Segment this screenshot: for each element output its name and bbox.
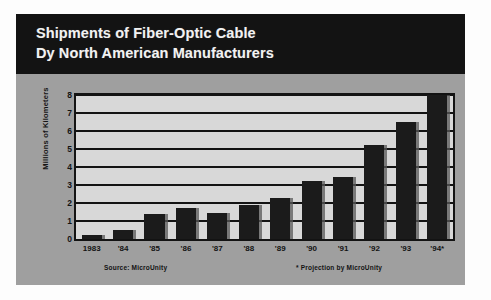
y-axis-tick: 5 — [56, 145, 72, 154]
chart-title-line-2: Dy North American Manufacturers — [36, 45, 274, 61]
bar — [239, 205, 259, 239]
y-axis-tick: 3 — [56, 181, 72, 190]
bar — [270, 198, 290, 239]
bar — [364, 145, 384, 240]
y-axis-tick: 7 — [56, 109, 72, 118]
y-axis-tick: 0 — [56, 235, 72, 244]
x-axis-tick: '88 — [233, 244, 264, 253]
bar — [207, 213, 227, 239]
bar — [176, 208, 196, 239]
y-axis-tick: 6 — [56, 127, 72, 136]
x-axis-tick: 1983 — [76, 244, 107, 253]
x-axis-tick: '91 — [327, 244, 358, 253]
bar — [144, 214, 164, 239]
projection-note: * Projection by MicroUnity — [296, 264, 382, 271]
chart-panel: Millions of Kilometers 012345678 1983'84… — [16, 74, 465, 285]
y-axis-tick: 2 — [56, 199, 72, 208]
chart-title-line-1: Shipments of Fiber-Optic Cable — [36, 25, 256, 41]
bar — [427, 95, 447, 239]
bar — [302, 181, 322, 239]
x-axis-tick: '85 — [139, 244, 170, 253]
y-axis-tick: 4 — [56, 163, 72, 172]
x-axis-tick: '92 — [359, 244, 390, 253]
x-axis-tick: '89 — [265, 244, 296, 253]
bar — [82, 235, 102, 240]
bar — [333, 177, 353, 239]
bar-series — [76, 95, 453, 239]
x-axis-tick: '87 — [202, 244, 233, 253]
y-axis-tick: 1 — [56, 217, 72, 226]
x-axis-tick: '93 — [390, 244, 421, 253]
bar — [113, 230, 133, 239]
chart-figure: Shipments of Fiber-Optic Cable Dy North … — [0, 0, 491, 300]
x-axis-tick: '86 — [170, 244, 201, 253]
x-axis-tick: '94* — [422, 244, 453, 253]
x-axis-tick: '84 — [107, 244, 138, 253]
y-axis-label: Millions of Kilometers — [41, 74, 50, 184]
y-axis-tick: 8 — [56, 91, 72, 100]
y-axis-tick-labels: 012345678 — [54, 93, 72, 241]
plot-area — [74, 93, 455, 241]
bar — [396, 122, 416, 239]
x-axis-tick-labels: 1983'84'85'86'87'88'89'90'91'92'93'94* — [74, 244, 455, 258]
x-axis-tick: '90 — [296, 244, 327, 253]
chart-title-block: Shipments of Fiber-Optic Cable Dy North … — [16, 14, 465, 74]
source-note: Source: MicroUnity — [104, 264, 167, 271]
